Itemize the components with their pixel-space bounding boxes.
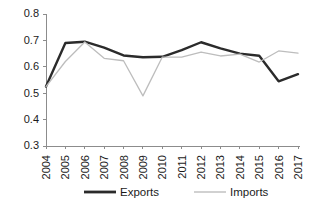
x-tick-label: 2006 (79, 155, 91, 179)
x-tick-label: 2004 (40, 155, 52, 179)
y-tick-label: 0.3 (24, 139, 39, 151)
x-tick-label: 2008 (118, 155, 130, 179)
y-tick-label: 0.8 (24, 7, 39, 19)
x-tick-label: 2013 (214, 155, 226, 179)
x-tick-label: 2005 (59, 155, 71, 179)
y-tick-label: 0.4 (24, 113, 39, 125)
x-tick-label: 2007 (98, 155, 110, 179)
y-tick-label: 0.7 (24, 34, 39, 46)
x-tick-label: 2017 (292, 155, 304, 179)
y-tick-label: 0.6 (24, 60, 39, 72)
line-chart-svg: 0.80.70.60.50.40.3 200420052006200720082… (0, 0, 313, 210)
legend-label-exports: Exports (120, 186, 159, 198)
x-tick-label: 2010 (156, 155, 168, 179)
legend-label-imports: Imports (230, 186, 269, 198)
x-tick-label: 2009 (137, 155, 149, 179)
x-tick-label: 2014 (234, 155, 246, 179)
x-tick-label: 2012 (195, 155, 207, 179)
x-tick-label: 2015 (253, 155, 265, 179)
chart-figure: 0.80.70.60.50.40.3 200420052006200720082… (0, 0, 313, 210)
x-tick-label: 2016 (273, 155, 285, 179)
x-tick-label: 2011 (176, 155, 188, 179)
y-tick-label: 0.5 (24, 87, 39, 99)
